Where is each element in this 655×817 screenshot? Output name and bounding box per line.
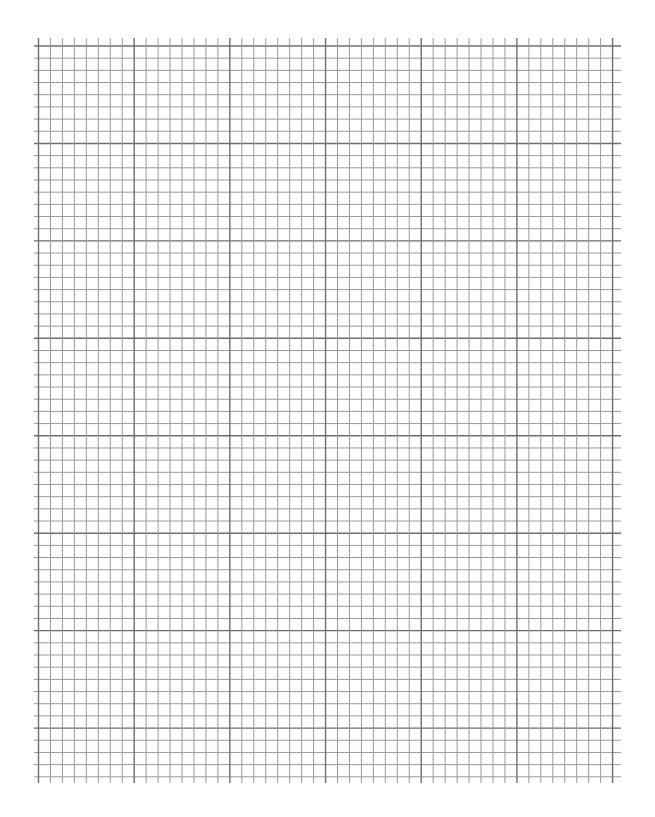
graph-paper-sheet <box>0 0 655 817</box>
vertical-grid-lines <box>39 38 613 783</box>
grid-lines <box>0 0 655 817</box>
